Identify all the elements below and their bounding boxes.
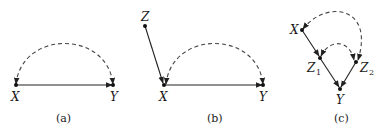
caption-b: (b) — [207, 112, 223, 125]
caption-a: (a) — [56, 112, 71, 125]
node-x — [162, 83, 166, 87]
node-x — [300, 28, 304, 32]
node-label-z: Z — [140, 10, 150, 24]
node-label-x: X — [289, 23, 299, 37]
node-y — [338, 87, 342, 91]
node-z — [143, 24, 147, 28]
node-label-x: X — [158, 90, 168, 104]
edge-z-to-x — [145, 26, 163, 83]
node-sub-z2: 2 — [369, 68, 374, 77]
node-y — [111, 83, 115, 87]
edge-z1-to-y — [320, 58, 339, 87]
edge-x-to-z1 — [302, 30, 319, 56]
node-label-y: Y — [259, 90, 268, 104]
node-label-y: Y — [336, 93, 345, 107]
caption-c: (c) — [334, 112, 349, 125]
node-label-z1: Z — [306, 61, 316, 75]
node-label-x: X — [10, 90, 20, 104]
node-y — [261, 83, 265, 87]
node-z1 — [318, 56, 322, 60]
node-label-z2: Z — [359, 61, 369, 75]
node-label-y: Y — [110, 90, 119, 104]
edge-z2-to-y — [341, 62, 356, 87]
causal-diagrams: X Y (a) Z X Y (b) X Z 1 Z 2 Y (c) — [0, 0, 388, 131]
panel-b: Z X Y (b) — [140, 10, 268, 125]
bidirected-edge-x-z2 — [303, 12, 361, 60]
node-z2 — [354, 60, 358, 64]
panel-a: X Y (a) — [10, 44, 119, 126]
bidirected-edge-x-y — [166, 44, 263, 85]
node-x — [14, 83, 18, 87]
node-sub-z1: 1 — [316, 68, 321, 77]
bidirected-edge-z1-z2 — [321, 44, 354, 60]
panel-c: X Z 1 Z 2 Y (c) — [289, 12, 374, 125]
bidirected-edge-x-y — [16, 44, 113, 85]
